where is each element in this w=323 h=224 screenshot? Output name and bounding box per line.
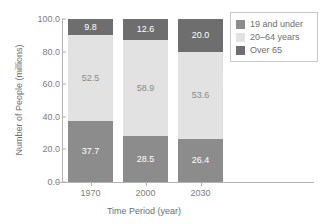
- legend-swatch-icon-19-and-under: [236, 20, 245, 29]
- x-tick-label-2030: 2030: [171, 188, 231, 198]
- bar-segment-19under-1970: 37.7: [68, 121, 113, 182]
- legend-item-over-65[interactable]: Over 65: [236, 44, 313, 56]
- bar-segment-19under-2000: 28.5: [123, 136, 168, 182]
- legend-label-19-and-under: 19 and under: [250, 19, 303, 29]
- y-tick-label-100: 100.0: [18, 14, 60, 24]
- y-axis-ticks: 0.0 20.0 40.0 60.0 80.0 100.0: [18, 0, 60, 224]
- y-tick-label-60: 60.0: [18, 79, 60, 89]
- bar-segment-over65-2000: 12.6: [123, 19, 168, 40]
- bar-1970[interactable]: 9.8 52.5 37.7: [68, 19, 113, 182]
- bar-2000[interactable]: 12.6 58.9 28.5: [123, 19, 168, 182]
- chart-legend: 19 and under 20–64 years Over 65: [230, 12, 318, 62]
- x-tick-label-2000: 2000: [116, 188, 176, 198]
- bar-segment-20-64-1970: 52.5: [68, 35, 113, 121]
- y-tick-label-0: 0.0: [18, 177, 60, 187]
- plot-area: 9.8 52.5 37.7 12.6 58.9 28.5 20.0 53.6 2…: [62, 19, 226, 182]
- legend-item-20-64-years[interactable]: 20–64 years: [236, 31, 313, 43]
- bar-segment-19under-2030: 26.4: [178, 139, 223, 182]
- bar-segment-20-64-2000: 58.9: [123, 40, 168, 136]
- legend-label-20-64-years: 20–64 years: [250, 32, 300, 42]
- y-tick-label-40: 40.0: [18, 112, 60, 122]
- x-tick-label-1970: 1970: [61, 188, 121, 198]
- stacked-bar-chart: Number of People (millions) 0.0 20.0 40.…: [0, 0, 323, 224]
- x-tick-mark-1970: [91, 182, 92, 186]
- y-tick-label-80: 80.0: [18, 47, 60, 57]
- y-tick-label-20: 20.0: [18, 144, 60, 154]
- legend-item-19-and-under[interactable]: 19 and under: [236, 18, 313, 30]
- legend-swatch-icon-20-64-years: [236, 33, 245, 42]
- bar-2030[interactable]: 20.0 53.6 26.4: [178, 19, 223, 182]
- x-tick-mark-2000: [146, 182, 147, 186]
- x-axis-title: Time Period (year): [62, 206, 226, 216]
- bar-segment-over65-2030: 20.0: [178, 19, 223, 52]
- bar-segment-20-64-2030: 53.6: [178, 52, 223, 139]
- x-tick-mark-2030: [201, 182, 202, 186]
- legend-label-over-65: Over 65: [250, 45, 282, 55]
- x-axis-line: [56, 182, 314, 183]
- bar-segment-over65-1970: 9.8: [68, 19, 113, 35]
- legend-swatch-icon-over-65: [236, 46, 245, 55]
